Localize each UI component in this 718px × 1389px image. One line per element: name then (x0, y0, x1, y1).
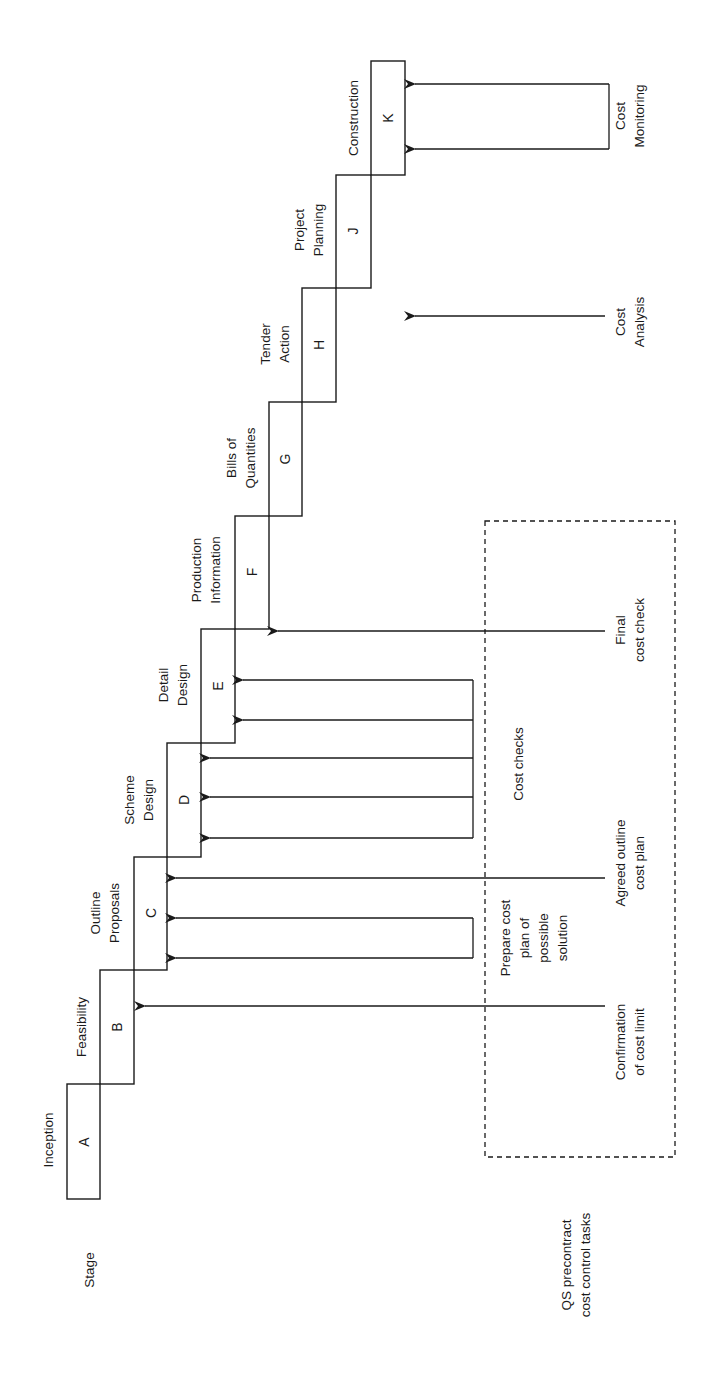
stage-name-construction: Construction (346, 80, 361, 156)
stage-letter-k: K (380, 113, 396, 123)
stage-name-bills-2: Quantities (243, 427, 258, 488)
stage-name-production-1: Production (189, 538, 204, 603)
stage-name-scheme-1: Scheme (122, 775, 137, 825)
row-label-qs-2: cost control tasks (578, 1213, 593, 1318)
stage-name-detail-1: Detail (156, 668, 171, 703)
task-confirmation-2: of cost limit (632, 1008, 647, 1076)
task-cost-checks: Cost checks (511, 727, 526, 801)
task-monitoring-2: Monitoring (632, 84, 647, 147)
stage-name-feasibility: Feasibility (74, 997, 89, 1057)
stage-name-bills-1: Bills of (224, 438, 239, 478)
task-agreed-2: cost plan (632, 836, 647, 890)
task-monitoring-1: Cost (613, 102, 628, 130)
row-label-qs-1: QS precontract (559, 1219, 574, 1310)
task-final-1: Final (613, 615, 628, 644)
stage-name-project-2: Planning (311, 204, 326, 257)
task-confirmation-1: Confirmation (613, 1004, 628, 1081)
stage-name-production-2: Information (208, 536, 223, 604)
row-label-stage: Stage (82, 1252, 97, 1287)
stage-letter-f: F (244, 568, 260, 577)
stage-letter-e: E (210, 681, 226, 690)
stage-name-project-1: Project (292, 209, 307, 251)
stage-letter-g: G (277, 454, 293, 465)
task-prepare-4: solution (555, 915, 570, 962)
stage-letter-a: A (76, 1137, 92, 1147)
task-analysis-2: Analysis (632, 297, 647, 348)
stage-letter-d: D (176, 795, 192, 805)
task-prepare-2: plan of (517, 917, 532, 958)
stage-name-outline-1: Outline (88, 892, 103, 935)
task-prepare-1: Prepare cost (498, 899, 513, 976)
task-labels: Confirmation of cost limit Prepare cost … (498, 84, 647, 1080)
task-final-2: cost check (632, 598, 647, 662)
stage-name-inception: Inception (41, 1113, 56, 1168)
task-prepare-3: possible (536, 913, 551, 963)
stage-letter-b: B (109, 1022, 125, 1031)
stage-letter-j: J (345, 228, 361, 235)
stage-letter-c: C (143, 908, 159, 918)
stage-name-tender-1: Tender (258, 323, 273, 365)
task-analysis-1: Cost (613, 308, 628, 336)
task-agreed-1: Agreed outline (613, 819, 628, 906)
stage-names: Inception Feasibility Outline Proposals … (41, 80, 361, 1167)
stage-name-scheme-2: Design (141, 779, 156, 821)
stage-diagram: A B C D E F G H J K Inception Feasibilit… (0, 0, 718, 1389)
stage-name-outline-2: Proposals (107, 883, 122, 943)
stage-name-detail-2: Design (175, 664, 190, 706)
stage-name-tender-2: Action (277, 325, 292, 363)
stage-letter-h: H (311, 340, 327, 350)
